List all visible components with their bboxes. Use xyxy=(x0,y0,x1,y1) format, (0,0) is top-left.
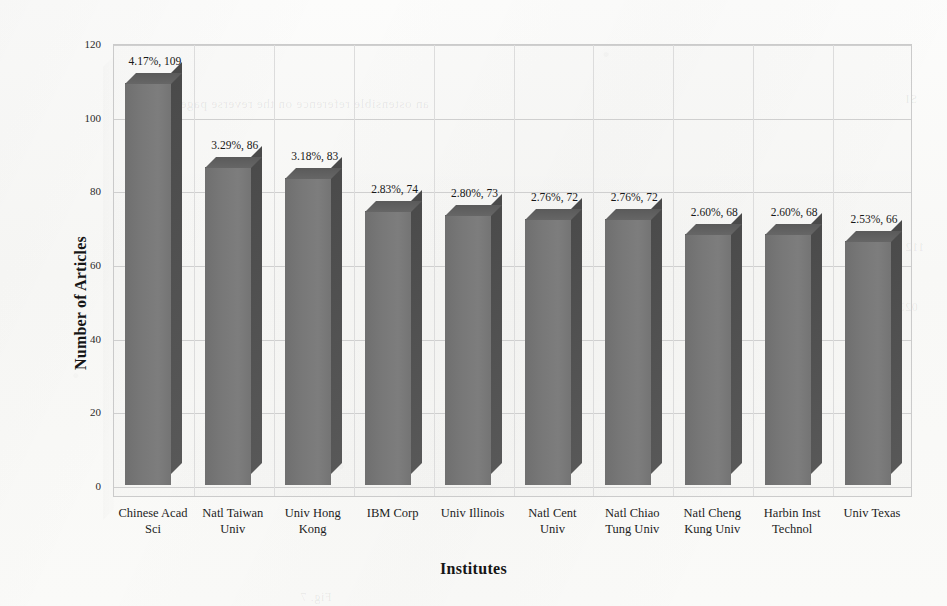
x-axis-category-label: Natl Taiwan Univ xyxy=(193,505,273,537)
x-axis-category-label: IBM Corp xyxy=(353,505,433,521)
figure-page: an ostensible reference on the reverse p… xyxy=(0,0,947,606)
x-axis-category-label: Harbin Inst Technol xyxy=(752,505,832,537)
x-axis-category-label: Chinese Acad Sci xyxy=(113,505,193,537)
x-axis-title: Institutes xyxy=(0,560,947,578)
x-axis-category-label: Univ Illinois xyxy=(433,505,513,521)
x-axis-category-label: Natl Cent Univ xyxy=(513,505,593,537)
x-axis-category-labels: Chinese Acad SciNatl Taiwan UnivUniv Hon… xyxy=(0,0,947,606)
x-axis-category-label: Univ Texas xyxy=(832,505,912,521)
x-axis-category-label: Univ Hong Kong xyxy=(273,505,353,537)
x-axis-category-label: Natl Chiao Tung Univ xyxy=(592,505,672,537)
x-axis-category-label: Natl Cheng Kung Univ xyxy=(672,505,752,537)
